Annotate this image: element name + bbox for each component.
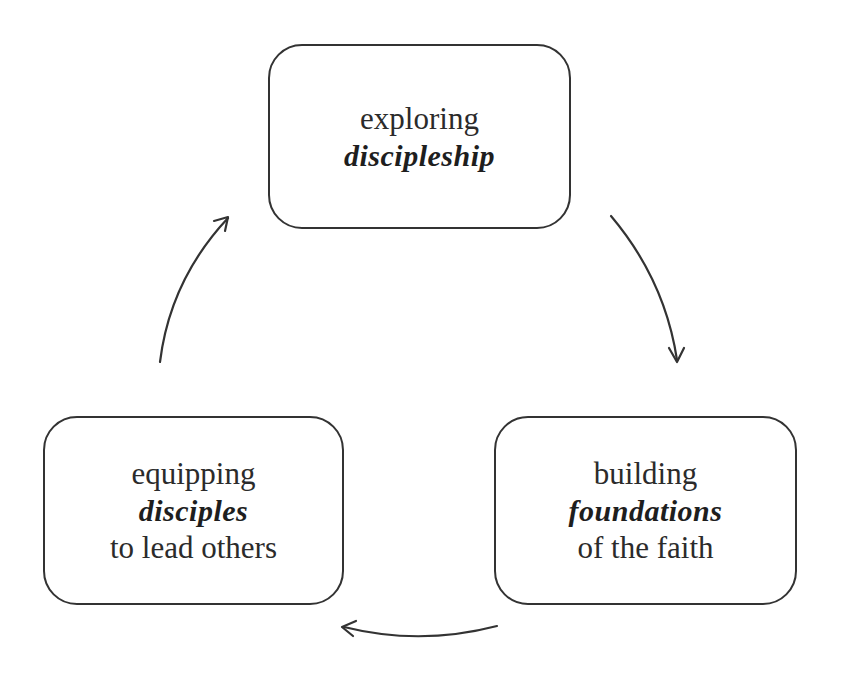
arrow-right-to-left <box>344 626 497 636</box>
node-script-label: discipleship <box>344 138 495 174</box>
node-script-label: foundations <box>569 493 723 529</box>
node-exploring-discipleship: exploring discipleship <box>268 44 571 229</box>
node-label: building <box>594 455 697 493</box>
arrow-left-to-top <box>160 218 228 362</box>
node-script-label: disciples <box>139 493 249 529</box>
node-equipping-disciples: equipping disciples to lead others <box>43 416 344 605</box>
node-label: exploring <box>360 100 479 138</box>
node-sublabel: to lead others <box>110 529 277 567</box>
node-building-foundations: building foundations of the faith <box>494 416 797 605</box>
node-sublabel: of the faith <box>577 529 713 567</box>
arrow-top-to-right <box>611 216 677 360</box>
node-label: equipping <box>132 455 256 493</box>
